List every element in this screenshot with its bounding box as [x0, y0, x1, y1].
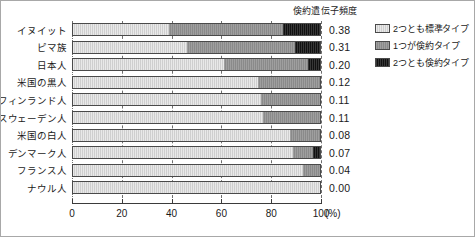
bar-row: 日本人0.20 — [72, 58, 321, 71]
frequency-value: 0.38 — [329, 24, 350, 36]
segment-standard — [73, 77, 258, 88]
legend-label: 1つが倹約タイプ — [393, 39, 460, 52]
frequency-value: 0.12 — [329, 76, 350, 88]
chart-figure: 倹約遺伝子頻度 イヌイット0.38ピマ族0.31日本人0.20米国の黒人0.12… — [0, 0, 475, 237]
x-tick-60 — [221, 199, 222, 204]
x-tick-40 — [172, 199, 173, 204]
frequency-value: 0.08 — [329, 129, 350, 141]
frequency-value: 0.31 — [329, 41, 350, 53]
stacked-bar — [72, 146, 321, 159]
bar-row: ナウル人0.00 — [72, 181, 321, 194]
legend-label: 2つとも標準タイプ — [393, 22, 469, 35]
bar-row: デンマーク人0.07 — [72, 146, 321, 159]
stacked-bar — [72, 129, 321, 142]
frequency-value: 0.11 — [329, 94, 349, 106]
stacked-bar — [72, 76, 321, 89]
x-tick-label: 100 — [313, 208, 330, 219]
frequency-value: 0.00 — [329, 182, 350, 194]
category-label: スウェーデン人 — [0, 111, 67, 125]
legend-swatch-icon — [375, 58, 390, 67]
bar-row: フランス人0.04 — [72, 164, 321, 177]
segment-heterozygous — [169, 24, 283, 35]
legend-swatch-icon — [375, 41, 390, 50]
segment-standard — [73, 147, 293, 158]
stacked-bar — [72, 181, 321, 194]
segment-heterozygous — [224, 59, 308, 70]
x-tick-label: 80 — [266, 208, 277, 219]
legend-item: 2つとも標準タイプ — [375, 20, 469, 37]
legend-item: 1つが倹約タイプ — [375, 37, 469, 54]
category-label: 日本人 — [37, 58, 67, 72]
bar-row: 米国の黒人0.12 — [72, 76, 321, 89]
x-tick-label: 0 — [69, 208, 75, 219]
segment-standard — [73, 59, 224, 70]
segment-heterozygous — [263, 112, 320, 123]
segment-homozygous — [283, 24, 320, 35]
stacked-bar — [72, 41, 321, 54]
bar-row: ピマ族0.31 — [72, 41, 321, 54]
category-label: フィンランド人 — [0, 93, 67, 107]
bar-row: イヌイット0.38 — [72, 23, 321, 36]
x-tick-label: 60 — [216, 208, 227, 219]
legend-swatch-icon — [375, 24, 390, 33]
segment-standard — [73, 94, 261, 105]
segment-standard — [73, 165, 303, 176]
frequency-value: 0.07 — [329, 147, 350, 159]
category-label: イヌイット — [17, 23, 67, 37]
gridline-100 — [321, 21, 322, 203]
value-column-title: 倹約遺伝子頻度 — [293, 4, 411, 17]
segment-heterozygous — [261, 94, 320, 105]
segment-homozygous — [308, 59, 320, 70]
category-label: フランス人 — [17, 163, 67, 177]
segment-standard — [73, 24, 169, 35]
segment-heterozygous — [303, 165, 320, 176]
segment-standard — [73, 182, 320, 193]
segment-heterozygous — [187, 42, 296, 53]
category-label: 米国の白人 — [17, 128, 67, 142]
stacked-bar — [72, 164, 321, 177]
stacked-bar — [72, 93, 321, 106]
segment-heterozygous — [293, 147, 313, 158]
bar-row: 米国の白人0.08 — [72, 129, 321, 142]
segment-heterozygous — [290, 130, 320, 141]
bar-row: フィンランド人0.11 — [72, 93, 321, 106]
x-tick-20 — [122, 199, 123, 204]
stacked-bar — [72, 23, 321, 36]
segment-standard — [73, 42, 187, 53]
x-tick-80 — [271, 199, 272, 204]
legend-item: 2つとも倹約タイプ — [375, 54, 469, 71]
segment-heterozygous — [258, 77, 320, 88]
x-axis: (%) 020406080100 — [72, 203, 321, 204]
category-label: ピマ族 — [37, 40, 67, 54]
category-label: ナウル人 — [27, 181, 67, 195]
chart-legend: 2つとも標準タイプ1つが倹約タイプ2つとも倹約タイプ — [375, 20, 469, 71]
x-tick-0 — [72, 199, 73, 204]
plot-area: イヌイット0.38ピマ族0.31日本人0.20米国の黒人0.12フィンランド人0… — [72, 21, 321, 197]
x-tick-100 — [321, 199, 322, 204]
frequency-value: 0.20 — [329, 59, 350, 71]
category-label: デンマーク人 — [8, 146, 67, 160]
stacked-bar — [72, 58, 321, 71]
segment-homozygous — [295, 42, 320, 53]
frequency-value: 0.04 — [329, 164, 350, 176]
category-label: 米国の黒人 — [17, 75, 67, 89]
bar-row: スウェーデン人0.11 — [72, 111, 321, 124]
stacked-bar — [72, 111, 321, 124]
legend-label: 2つとも倹約タイプ — [393, 56, 469, 69]
x-tick-label: 20 — [116, 208, 127, 219]
frequency-value: 0.11 — [329, 112, 349, 124]
segment-standard — [73, 130, 290, 141]
x-tick-label: 40 — [166, 208, 177, 219]
segment-homozygous — [313, 147, 320, 158]
segment-standard — [73, 112, 263, 123]
